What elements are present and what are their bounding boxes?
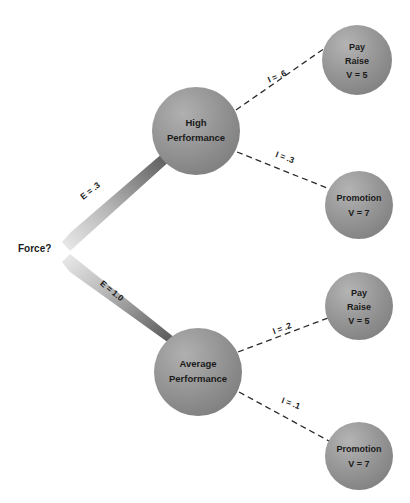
edge-label-expectancy-high: E = .3 (78, 180, 102, 202)
node-pay-raise-high-value: V = 5 (346, 70, 367, 80)
node-pay-raise-average-line1: Pay (351, 288, 367, 298)
node-average-performance[interactable]: Average Performance (154, 328, 242, 416)
diagram-canvas: High Performance Average Performance Pay… (0, 0, 410, 503)
source-label-force: Force? (18, 243, 51, 254)
edge-label-instrumentality-average-pay-raise: I = .2 (271, 320, 293, 336)
node-pay-raise-average-line2: Raise (347, 302, 371, 312)
expectancy-theory-diagram: High Performance Average Performance Pay… (0, 0, 410, 503)
node-high-performance-line1: High (185, 117, 206, 128)
node-high-performance[interactable]: High Performance (152, 87, 240, 175)
node-promotion-average-line1: Promotion (337, 444, 382, 454)
node-pay-raise-high[interactable]: Pay Raise V = 5 (322, 25, 392, 95)
edge-label-instrumentality-high-promotion: I = .3 (274, 149, 296, 165)
node-promotion-high[interactable]: Promotion V = 7 (325, 171, 393, 239)
node-pay-raise-average[interactable]: Pay Raise V = 5 (325, 272, 393, 340)
edge-label-instrumentality-high-pay-raise: I = .6 (266, 68, 288, 85)
node-pay-raise-high-line1: Pay (349, 42, 365, 52)
node-pay-raise-average-value: V = 5 (348, 316, 369, 326)
node-promotion-average[interactable]: Promotion V = 7 (325, 422, 393, 490)
edge-label-instrumentality-average-promotion: I = .1 (280, 395, 302, 411)
node-promotion-average-value: V = 7 (348, 459, 369, 469)
node-average-performance-line2: Performance (169, 373, 227, 384)
node-high-performance-line2: Performance (167, 132, 225, 143)
node-promotion-high-value: V = 7 (348, 208, 369, 218)
node-average-performance-line1: Average (179, 358, 216, 369)
node-pay-raise-high-line2: Raise (345, 56, 369, 66)
node-promotion-high-line1: Promotion (337, 193, 382, 203)
